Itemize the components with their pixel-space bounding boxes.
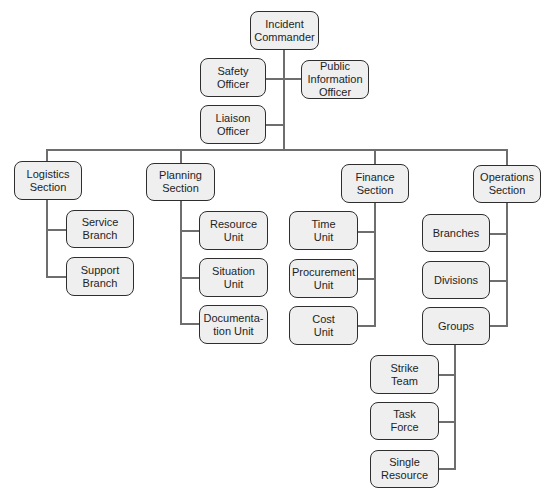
connector-safety — [266, 78, 284, 80]
connector-divisions — [490, 280, 507, 282]
connector-groups — [490, 325, 507, 327]
connector-sections-bar — [46, 149, 508, 151]
node-cost-unit: Cost Unit — [289, 306, 358, 345]
connector-planning — [180, 149, 182, 163]
node-groups: Groups — [422, 307, 490, 345]
node-public-information-officer: Public Information Officer — [301, 60, 369, 99]
node-logistics-section: Logistics Section — [14, 161, 82, 200]
connector-pio — [284, 78, 301, 80]
node-operations-section: Operations Section — [473, 165, 541, 203]
node-service-branch: Service Branch — [66, 210, 134, 248]
node-support-branch: Support Branch — [66, 257, 134, 296]
connector-branches — [490, 233, 507, 235]
node-single-resource: Single Resource — [370, 450, 439, 488]
node-procurement-unit: Procurement Unit — [289, 259, 358, 298]
connector-liaison — [266, 124, 284, 126]
node-divisions: Divisions — [422, 261, 490, 299]
connector-operations-vertical — [506, 203, 508, 327]
connector-logistics — [46, 149, 48, 161]
connector-logistics-vertical — [46, 200, 48, 278]
node-situation-unit: Situation Unit — [199, 258, 268, 297]
connector-finance-vertical — [374, 203, 376, 327]
connector-procurement — [358, 278, 375, 280]
node-safety-officer: Safety Officer — [200, 58, 266, 97]
node-incident-commander: Incident Commander — [250, 11, 319, 50]
connector-groups-vertical — [454, 345, 456, 470]
org-chart: Incident Commander Safety Officer Public… — [0, 0, 550, 496]
connector-single-resource — [439, 468, 455, 470]
node-task-force: Task Force — [370, 402, 439, 440]
connector-planning-vertical — [180, 201, 182, 325]
node-documentation-unit: Documenta- tion Unit — [199, 305, 268, 344]
node-planning-section: Planning Section — [146, 163, 215, 201]
connector-task-force — [439, 421, 455, 423]
connector-strike-team — [439, 374, 455, 376]
node-time-unit: Time Unit — [289, 211, 358, 250]
connector-cost — [358, 325, 375, 327]
connector-trunk — [283, 50, 285, 151]
connector-finance — [374, 149, 376, 164]
node-finance-section: Finance Section — [341, 164, 409, 203]
connector-operations — [506, 149, 508, 165]
node-branches: Branches — [422, 214, 490, 252]
connector-resource — [180, 230, 199, 232]
node-resource-unit: Resource Unit — [199, 211, 268, 250]
node-strike-team: Strike Team — [370, 355, 439, 394]
connector-service — [46, 229, 66, 231]
node-liaison-officer: Liaison Officer — [200, 105, 266, 144]
connector-documentation — [180, 323, 199, 325]
connector-time — [358, 231, 375, 233]
connector-situation — [180, 277, 199, 279]
connector-support — [46, 276, 66, 278]
